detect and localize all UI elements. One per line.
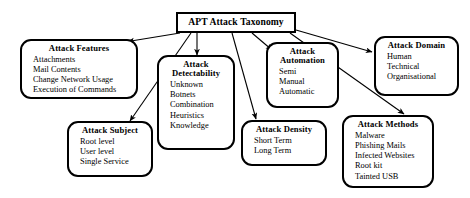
node-items-attack-domain: Human Technical Organisational [380, 52, 453, 83]
list-item: User level [80, 147, 147, 157]
node-title-attack-subject: Attack Subject [73, 126, 147, 136]
list-item: Manual [279, 77, 333, 87]
node-attack-methods[interactable]: Attack Methods Malware Phishing Mails In… [342, 115, 434, 188]
node-title-line: Detectability [163, 69, 229, 78]
node-title-attack-density: Attack Density [247, 125, 321, 135]
node-attack-automation[interactable]: Attack Automation Semi Manual Automatic [266, 42, 339, 108]
list-item: Infected Websites [355, 151, 428, 161]
node-title-attack-detectability: Attack Detectability [163, 60, 229, 79]
list-item: Automatic [279, 87, 333, 97]
node-items-attack-detectability: Unknown Botnets Combination Heuristics K… [163, 80, 229, 131]
list-item: Organisational [387, 72, 453, 82]
node-items-attack-subject: Root level User level Single Service [73, 137, 147, 168]
taxonomy-diagram: APT Attack Taxonomy Attack Features Atta… [0, 0, 470, 198]
list-item: Combination [170, 100, 229, 110]
node-items-attack-density: Short Term Long Term [247, 136, 321, 157]
node-attack-subject[interactable]: Attack Subject Root level User level Sin… [67, 121, 153, 177]
list-item: Heuristics [170, 111, 229, 121]
list-item: Root level [80, 137, 147, 147]
list-item: Change Network Usage [33, 75, 132, 85]
list-item: Short Term [254, 136, 321, 146]
node-items-attack-methods: Malware Phishing Mails Infected Websites… [348, 131, 428, 182]
node-attack-detectability[interactable]: Attack Detectability Unknown Botnets Com… [157, 55, 235, 150]
node-title-attack-automation: Attack Automation [272, 47, 333, 66]
list-item: Execution of Commands [33, 85, 132, 95]
node-attack-domain[interactable]: Attack Domain Human Technical Organisati… [374, 36, 459, 96]
node-items-attack-features: Attachments Mail Contents Change Network… [26, 55, 132, 96]
list-item: Long Term [254, 146, 321, 156]
node-title-attack-features: Attack Features [26, 44, 132, 54]
node-title-apt-attack-taxonomy: APT Attack Taxonomy [188, 17, 284, 28]
node-attack-features[interactable]: Attack Features Attachments Mail Content… [20, 39, 138, 99]
list-item: Tainted USB [355, 172, 428, 182]
list-item: Root kit [355, 161, 428, 171]
list-item: Human [387, 52, 453, 62]
list-item: Single Service [80, 157, 147, 167]
list-item: Attachments [33, 55, 132, 65]
node-items-attack-automation: Semi Manual Automatic [272, 67, 333, 98]
list-item: Semi [279, 67, 333, 77]
list-item: Botnets [170, 90, 229, 100]
node-title-line: Automation [272, 56, 333, 65]
node-title-attack-domain: Attack Domain [380, 41, 453, 51]
node-attack-density[interactable]: Attack Density Short Term Long Term [241, 120, 327, 166]
list-item: Technical [387, 62, 453, 72]
node-apt-attack-taxonomy[interactable]: APT Attack Taxonomy [176, 12, 296, 33]
edge-root-to-attack-density [232, 33, 256, 119]
list-item: Unknown [170, 80, 229, 90]
list-item: Phishing Mails [355, 141, 428, 151]
list-item: Knowledge [170, 121, 229, 131]
list-item: Mail Contents [33, 65, 132, 75]
node-title-attack-methods: Attack Methods [348, 120, 428, 130]
list-item: Malware [355, 131, 428, 141]
